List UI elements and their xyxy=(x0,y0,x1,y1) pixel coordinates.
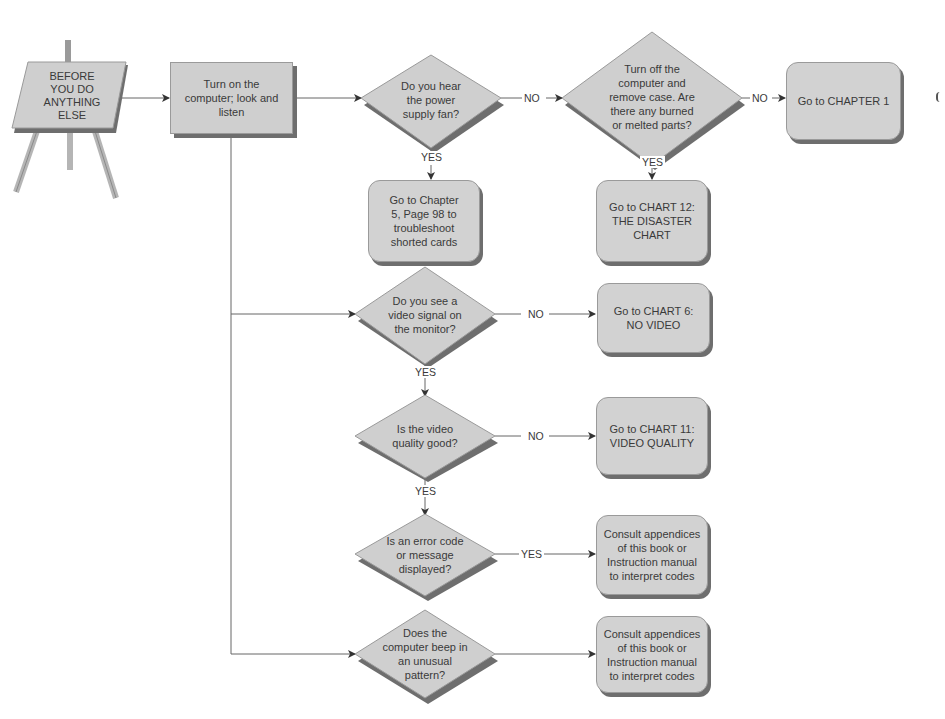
edge-label-burned-yes: YES xyxy=(640,156,665,168)
outcome-chapter1-box: Go to CHAPTER 1 xyxy=(786,62,901,140)
edge-label-fan-no: NO xyxy=(522,92,542,104)
decision-error-code-text: Is an error code or message displayed? xyxy=(370,530,480,580)
decision-beep-text: Does the computer beep in an unusual pat… xyxy=(370,622,480,686)
start-easel-label: BEFORE YOU DO ANYTHING ELSE xyxy=(22,70,122,122)
outcome-consult-codes-box: Consult appendices of this book or Instr… xyxy=(596,515,708,595)
edge-label-video-signal-yes: YES xyxy=(413,366,438,378)
outcome-chapter5-box: Go to Chapter 5, Page 98 to troubleshoot… xyxy=(368,180,480,262)
decision-video-quality-text: Is the video quality good? xyxy=(375,416,475,456)
outcome-chart12-box: Go to CHART 12: THE DISASTER CHART xyxy=(596,180,708,262)
edge-label-error-code-yes: YES xyxy=(519,548,544,560)
edge-label-burned-no: NO xyxy=(750,92,770,104)
step-turn-on-box: Turn on the computer; look and listen xyxy=(170,62,293,134)
outcome-chart6-box: Go to CHART 6: NO VIDEO xyxy=(597,283,710,353)
cropped-edge-glyph xyxy=(936,92,944,102)
decision-video-signal-text: Do you see a video signal on the monitor… xyxy=(375,285,475,345)
outcome-chart11-box: Go to CHART 11: VIDEO QUALITY xyxy=(596,397,708,475)
edge-label-video-signal-no: NO xyxy=(526,308,546,320)
edge-label-fan-yes: YES xyxy=(419,151,444,163)
outcome-consult-beep-box: Consult appendices of this book or Instr… xyxy=(596,616,708,693)
decision-burned-text: Turn off the computer and remove case. A… xyxy=(592,32,712,162)
edge-label-video-quality-yes: YES xyxy=(413,485,438,497)
edge-label-video-quality-no: NO xyxy=(526,430,546,442)
decision-fan-text: Do you hear the power supply fan? xyxy=(381,70,481,130)
